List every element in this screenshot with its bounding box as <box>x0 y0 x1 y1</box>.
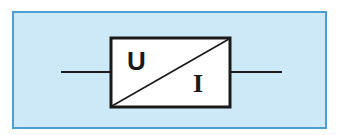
converter-diagram: U I <box>0 0 343 135</box>
input-label-u: U <box>127 46 146 76</box>
output-label-i: I <box>193 69 203 98</box>
